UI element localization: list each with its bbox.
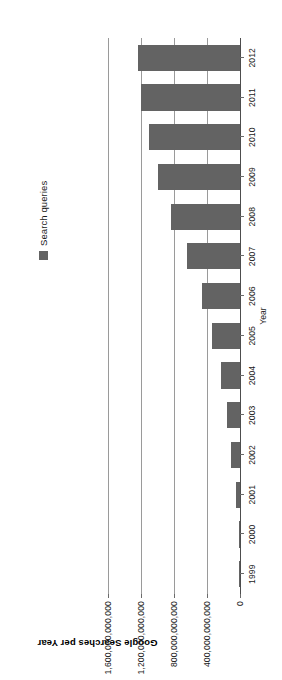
x-tick-label: 2000 [247,525,257,545]
bar[interactable] [171,204,240,230]
x-tick-label: 2001 [247,485,257,505]
bar[interactable] [149,124,240,150]
x-tick-mark [240,136,244,137]
bar-slot: 2003 [100,395,240,435]
plot-area: 0400,000,000,000800,000,000,0001,200,000… [100,38,240,594]
bar-slot: 2010 [100,117,240,157]
legend-entry-label: Search queries [38,181,49,246]
x-tick-label: 2009 [247,167,257,187]
bar[interactable] [138,45,240,71]
bar[interactable] [212,323,240,349]
x-tick-mark [240,533,244,534]
y-tick-label: 1,600,000,000,000 [103,601,113,674]
x-tick-label: 2006 [247,286,257,306]
bar[interactable] [158,164,240,190]
x-tick-label: 2005 [247,326,257,346]
bar[interactable] [239,521,240,547]
bar-slot: 2009 [100,157,240,197]
y-tick-mark [108,594,109,598]
bar-slot: 2007 [100,237,240,277]
bar[interactable] [141,84,240,110]
y-tick-mark [174,594,175,598]
x-tick-mark [240,176,244,177]
bar[interactable] [227,402,240,428]
x-axis-title: Year [258,38,268,594]
x-tick-label: 2002 [247,445,257,465]
x-tick-label: 2007 [247,247,257,267]
bar[interactable] [239,561,240,587]
bar-slot: 1999 [100,554,240,594]
bar-slot: 2001 [100,475,240,515]
x-tick-mark [240,97,244,98]
y-tick-label: 0 [235,601,245,606]
y-tick-label: 1,200,000,000,000 [136,601,146,674]
x-tick-mark [240,375,244,376]
x-tick-label: 1999 [247,564,257,584]
y-tick-label: 800,000,000,000 [169,601,179,667]
chart-title: Google Searches per Year [3,638,193,649]
x-tick-mark [240,414,244,415]
bar-slot: 2000 [100,515,240,555]
bar-series: 1999200020012002200320042005200620072008… [100,38,240,594]
bar[interactable] [231,442,240,468]
x-tick-mark [240,494,244,495]
bar-slot: 2012 [100,38,240,78]
bar-slot: 2011 [100,78,240,118]
bar[interactable] [202,283,240,309]
bar[interactable] [221,362,240,388]
bar[interactable] [236,482,240,508]
bar-slot: 2008 [100,197,240,237]
x-tick-mark [240,295,244,296]
chart-legend: Search queries [38,181,49,260]
bar-slot: 2002 [100,435,240,475]
y-tick-label: 400,000,000,000 [202,601,212,667]
y-tick-mark [240,594,241,598]
y-tick-mark [141,594,142,598]
x-tick-mark [240,255,244,256]
x-tick-label: 2004 [247,366,257,386]
value-axis-baseline [240,38,241,594]
chart-figure: Search queries Google Searches per Year … [0,0,282,680]
x-tick-label: 2010 [247,127,257,147]
bar[interactable] [187,243,240,269]
y-tick-mark [207,594,208,598]
x-tick-mark [240,454,244,455]
legend-swatch-icon [39,251,48,260]
x-tick-mark [240,216,244,217]
x-tick-label: 2008 [247,207,257,227]
bar-slot: 2006 [100,276,240,316]
x-tick-label: 2003 [247,406,257,426]
x-tick-label: 2011 [247,88,257,107]
bar-slot: 2005 [100,316,240,356]
rotated-chart-canvas: Search queries Google Searches per Year … [0,0,282,680]
x-tick-label: 2012 [247,48,257,68]
x-tick-mark [240,335,244,336]
bar-slot: 2004 [100,356,240,396]
x-tick-mark [240,573,244,574]
x-tick-mark [240,57,244,58]
